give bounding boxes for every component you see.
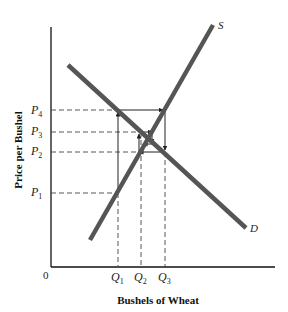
q1-label: Q1 <box>111 270 124 286</box>
demand-curve <box>68 65 246 228</box>
p2-label: P2 <box>30 144 42 160</box>
supply-label: S <box>218 19 224 31</box>
y-axis-title: Price per Bushel <box>12 111 24 188</box>
q2-label: Q2 <box>134 270 147 286</box>
guide-lines <box>51 110 165 267</box>
q3-label: Q3 <box>158 270 171 286</box>
p4-label: P4 <box>30 103 42 119</box>
axes <box>51 27 275 267</box>
p1-label: P1 <box>30 185 42 201</box>
demand-label: D <box>249 222 258 234</box>
supply-curve <box>90 25 213 240</box>
price-labels: P4 P3 P2 P1 <box>30 103 42 201</box>
supply-demand-diagram: S D P4 P3 P2 P1 Q1 Q2 Q3 0 Bushels of Wh… <box>0 0 288 312</box>
p3-label: P3 <box>30 124 42 140</box>
origin-label: 0 <box>43 269 49 281</box>
x-axis-title: Bushels of Wheat <box>117 294 199 306</box>
quantity-labels: Q1 Q2 Q3 <box>111 270 171 286</box>
